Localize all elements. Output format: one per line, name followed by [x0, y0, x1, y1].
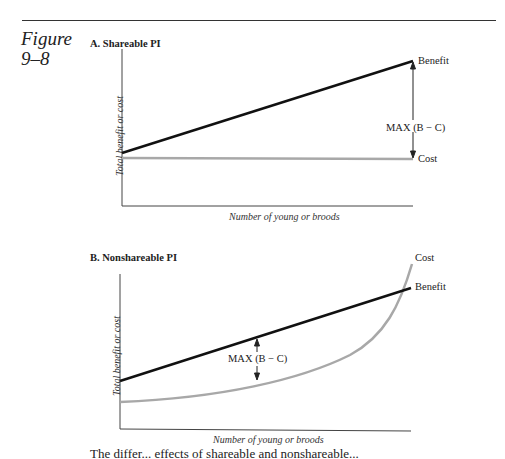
panel-a-max-arrow [411, 62, 416, 158]
figure-label-word: Figure [21, 29, 72, 49]
panel-b-cost-label: Cost [415, 252, 434, 263]
panel-b-cost-curve [120, 264, 412, 402]
figure-label-number: 9–8 [21, 49, 72, 69]
panel-b-xlabel: Number of young or broods [213, 434, 324, 445]
caption-fragment: The differ... effects of shareable and n… [90, 446, 359, 459]
panel-b-benefit-line [120, 288, 411, 381]
panel-a-ylabel: Total benefit or cost [114, 96, 125, 176]
panel-b-max-annotation: MAX (B − C) [228, 353, 287, 364]
panel-a-max-annotation: MAX (B − C) [386, 122, 445, 133]
panel-a-cost-label: Cost [418, 153, 437, 164]
figure-label: Figure 9–8 [21, 29, 72, 69]
panel-b-title: B. Nonshareable PI [90, 252, 177, 263]
panel-a-title: A. Shareable PI [90, 38, 161, 49]
chart-canvas [0, 0, 505, 459]
panel-a-benefit-line [122, 61, 413, 153]
panel-a-axes [122, 49, 413, 206]
top-rule [22, 20, 496, 21]
panel-a-cost-line [122, 158, 413, 159]
panel-b-ylabel: Total benefit or cost [111, 316, 122, 396]
panel-a-benefit-label: Benefit [418, 55, 449, 66]
panel-a-xlabel: Number of young or broods [229, 211, 340, 222]
panel-b-benefit-label: Benefit [415, 281, 446, 292]
